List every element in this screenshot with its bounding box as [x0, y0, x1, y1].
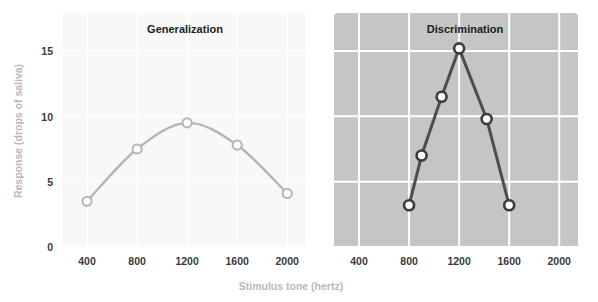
- y-tick-label-0: 0: [47, 241, 53, 253]
- plot-area-background-left: [62, 13, 306, 248]
- x-tick-label-800: 800: [400, 255, 418, 267]
- x-tick-label-1200: 1200: [447, 255, 471, 267]
- y-axis-title: Response (drops of saliva): [12, 64, 24, 198]
- data-point-marker: [283, 189, 292, 198]
- x-axis-title: Stimulus tone (hertz): [239, 280, 343, 292]
- data-point-marker: [82, 197, 91, 206]
- x-tick-label-1600: 1600: [498, 255, 522, 267]
- figure-container: Generalization Discrimination 15 10 5 0 …: [0, 0, 598, 302]
- two-panel-line-chart: Generalization Discrimination 15 10 5 0 …: [0, 0, 598, 302]
- data-point-marker: [454, 43, 464, 53]
- panel-title-discrimination: Discrimination: [427, 23, 504, 35]
- x-axis-group-right: 400800120016002000: [350, 255, 571, 267]
- data-point-marker: [437, 92, 447, 102]
- x-tick-label-400: 400: [350, 255, 368, 267]
- y-tick-label-15: 15: [41, 45, 53, 57]
- data-point-marker: [183, 118, 192, 127]
- data-point-marker: [132, 144, 141, 153]
- x-tick-label-1600: 1600: [226, 255, 250, 267]
- panel-discrimination: Discrimination: [334, 13, 578, 248]
- y-tick-label-5: 5: [47, 176, 53, 188]
- data-point-marker: [404, 200, 414, 210]
- y-axis-group: 15 10 5 0 Response (drops of saliva): [12, 45, 53, 253]
- x-tick-label-1200: 1200: [175, 255, 199, 267]
- data-point-marker: [233, 140, 242, 149]
- x-tick-label-2000: 2000: [548, 255, 572, 267]
- x-tick-label-2000: 2000: [276, 255, 300, 267]
- x-tick-label-800: 800: [128, 255, 146, 267]
- data-point-marker: [417, 151, 427, 161]
- y-tick-label-10: 10: [41, 111, 53, 123]
- panel-title-generalization: Generalization: [147, 23, 223, 35]
- x-tick-label-400: 400: [78, 255, 96, 267]
- data-point-marker: [482, 114, 492, 124]
- panel-generalization: Generalization: [62, 13, 306, 248]
- x-axis-group-left: 400800120016002000: [78, 255, 299, 267]
- data-point-marker: [504, 200, 514, 210]
